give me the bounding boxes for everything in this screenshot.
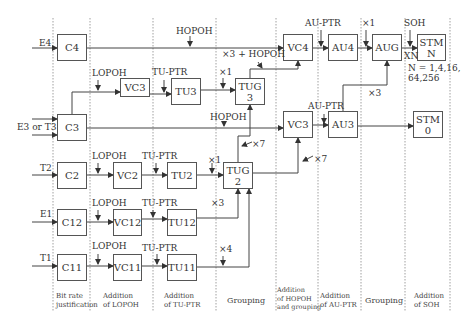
- label-tuptr-tu3: TU-PTR: [152, 67, 187, 77]
- label-n-values: N = 1,4,16, 64,256: [408, 63, 461, 83]
- box-c2: C2: [57, 162, 87, 189]
- label-lopoh-vc12: LOPOH: [92, 198, 127, 208]
- box-tu11: TU11: [167, 254, 197, 281]
- box-tug3: TUG 3: [235, 78, 265, 105]
- box-aug: AUG: [372, 34, 402, 61]
- stage-addition-soh: Addition of SOH: [414, 292, 444, 310]
- label-tuptr-tu12: TU-PTR: [142, 198, 177, 208]
- box-tu12: TU12: [167, 209, 197, 236]
- label-x3-tu12: ×3: [211, 198, 224, 208]
- box-vc3-low: VC3: [120, 78, 150, 97]
- label-lopoh-vc11: LOPOH: [92, 241, 127, 251]
- label-x4-tu11: ×4: [219, 244, 232, 254]
- box-tug2: TUG 2: [223, 162, 253, 189]
- input-e4-label: E4: [39, 38, 51, 48]
- box-vc4: VC4: [283, 34, 313, 61]
- box-vc2: VC2: [113, 162, 142, 189]
- label-x1-aug: ×1: [362, 18, 375, 28]
- label-auptr-au4: AU-PTR: [305, 18, 341, 28]
- box-au3: AU3: [328, 111, 358, 138]
- label-x3-aug: ×3: [368, 88, 381, 98]
- label-x7-vc3: ×7: [314, 154, 327, 164]
- stage-addition-hopoh-grouping: Addition of HOPOH and grouping: [277, 286, 321, 312]
- stage-bit-rate-justification: Bit rate justification: [56, 292, 98, 310]
- input-e1-label: E1: [40, 209, 52, 219]
- box-tu2: TU2: [167, 162, 197, 189]
- label-hopoh-top: HOPOH: [176, 26, 213, 36]
- label-x1-tug2: ×1: [208, 155, 221, 165]
- box-vc11: VC11: [113, 254, 142, 281]
- input-t2-label: T2: [40, 163, 52, 173]
- box-au4: AU4: [328, 34, 358, 61]
- stage-grouping-2: Grouping: [365, 296, 403, 305]
- label-x7-tug3: ×7: [252, 139, 265, 149]
- box-c11: C11: [57, 254, 87, 281]
- box-c3: C3: [57, 114, 87, 141]
- box-vc3-high: VC3: [283, 111, 313, 138]
- label-x1-tug3: ×1: [219, 67, 232, 77]
- box-c4: C4: [57, 34, 87, 61]
- box-stm-n: STM N: [417, 34, 446, 61]
- label-xn: XN: [404, 51, 418, 61]
- stage-addition-lopoh: Addition of LOPOH: [103, 292, 139, 310]
- stage-addition-au-ptr: Addition of AU-PTR: [320, 292, 357, 310]
- box-vc12: VC12: [113, 209, 142, 236]
- label-hopoh-mid: HOPOH: [210, 112, 247, 122]
- stage-addition-tu-ptr: Addition of TU-PTR: [164, 292, 201, 310]
- label-soh: SOH: [404, 18, 425, 28]
- input-e3-t3-label: E3 or T3: [17, 122, 56, 132]
- label-tuptr-tu2: TU-PTR: [142, 151, 177, 161]
- label-lopoh-vc2: LOPOH: [92, 151, 127, 161]
- label-lopoh-vc3: LOPOH: [92, 68, 127, 78]
- input-t1-label: T1: [40, 253, 52, 263]
- stage-grouping-1: Grouping: [227, 296, 265, 305]
- label-auptr-au3: AU-PTR: [308, 101, 344, 111]
- box-tu3: TU3: [171, 78, 201, 105]
- label-x3-hopoh: ×3 + HOPOH: [222, 49, 285, 59]
- box-stm-0: STM 0: [413, 111, 443, 138]
- box-c12: C12: [57, 209, 87, 236]
- label-tuptr-tu11: TU-PTR: [142, 243, 177, 253]
- sdh-multiplexing-diagram: E4 E3 or T3 T2 E1 T1 C4 C3 C2 C12 C11 VC…: [0, 0, 468, 332]
